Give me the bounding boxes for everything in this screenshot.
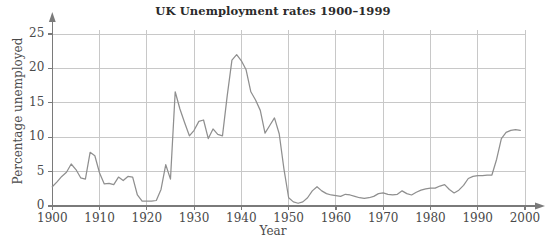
chart-figure: UK Unemployment rates 1900–1999 05101520… xyxy=(0,0,546,244)
x-tick-1900: 1900 xyxy=(29,211,75,225)
x-tick-1950: 1950 xyxy=(266,211,312,225)
x-tick-1980: 1980 xyxy=(407,211,453,225)
y-tick-0: 0 xyxy=(20,198,44,212)
x-tick-1920: 1920 xyxy=(124,211,170,225)
x-tick-1930: 1930 xyxy=(171,211,217,225)
x-tick-1940: 1940 xyxy=(218,211,264,225)
x-tick-1990: 1990 xyxy=(455,211,501,225)
x-tick-1910: 1910 xyxy=(77,211,123,225)
chart-plot-area xyxy=(0,0,546,244)
data-series-line xyxy=(52,55,520,204)
x-tick-1970: 1970 xyxy=(360,211,406,225)
x-axis-title: Year xyxy=(0,224,546,238)
y-axis-title: Percentage unemployed xyxy=(11,31,25,191)
x-tick-2000: 2000 xyxy=(502,211,546,225)
x-tick-1960: 1960 xyxy=(313,211,359,225)
